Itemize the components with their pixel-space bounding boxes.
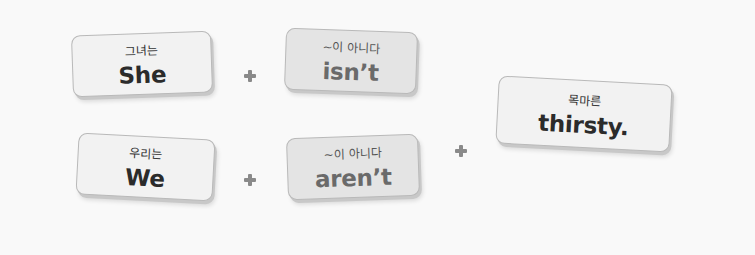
korean-label: 그녀는 xyxy=(125,40,159,58)
card-she: 그녀는 She xyxy=(71,31,213,98)
plus-icon xyxy=(244,174,256,186)
card-we: 우리는 We xyxy=(75,132,215,201)
english-word: thirsty. xyxy=(538,109,630,140)
english-word: We xyxy=(125,163,166,191)
card-arent: ~이 아니다 aren’t xyxy=(286,134,420,201)
english-word: She xyxy=(118,61,167,89)
plus-icon xyxy=(455,145,467,157)
plus-icon xyxy=(244,70,256,82)
korean-label: 우리는 xyxy=(129,143,163,162)
card-thirsty: 목마른 thirsty. xyxy=(495,75,672,152)
korean-label: ~이 아니다 xyxy=(323,143,381,162)
korean-label: 목마른 xyxy=(568,90,602,109)
english-word: aren’t xyxy=(315,163,393,192)
english-word: isn’t xyxy=(322,58,379,86)
korean-label: ~이 아니다 xyxy=(322,37,380,56)
card-isnt: ~이 아니다 isn’t xyxy=(284,28,418,95)
